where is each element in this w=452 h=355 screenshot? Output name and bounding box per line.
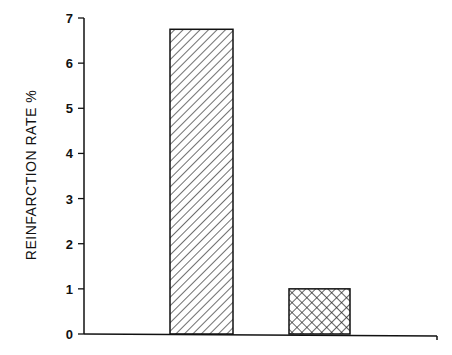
y-tick-label: 2 <box>66 237 73 252</box>
y-tick-label: 1 <box>66 282 73 297</box>
y-axis: 01234567 <box>66 11 84 342</box>
y-tick-label: 0 <box>66 327 73 342</box>
y-tick-label: 3 <box>66 192 73 207</box>
y-tick-label: 5 <box>66 101 73 116</box>
y-tick-label: 4 <box>66 146 74 161</box>
bar-2 <box>289 289 350 334</box>
y-tick-label: 7 <box>66 11 73 26</box>
x-axis <box>84 334 437 340</box>
bar-chart: REINFARCTION RATE % 01234567 <box>0 0 452 355</box>
bar-1 <box>170 29 233 334</box>
y-tick-label: 6 <box>66 56 73 71</box>
y-axis-title: REINFARCTION RATE % <box>23 90 39 260</box>
bars-group <box>170 29 350 334</box>
